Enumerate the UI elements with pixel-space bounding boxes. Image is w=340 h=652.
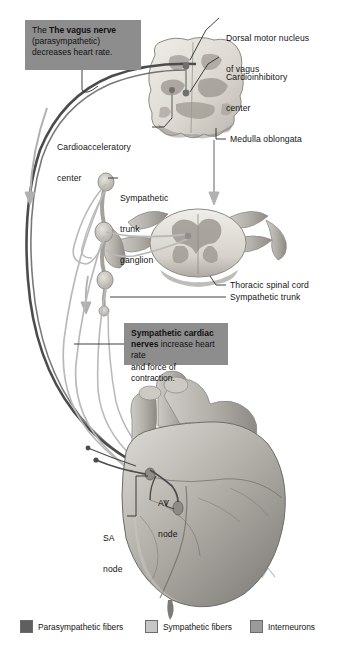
stg-line2: trunk bbox=[120, 224, 168, 234]
medulla-oblongata-label: Medulla oblongata bbox=[230, 134, 302, 144]
sympathetic-trunk-ganglion-label: Sympathetic trunk ganglion bbox=[120, 172, 168, 286]
legend-parasympathetic: Parasympathetic fibers bbox=[20, 620, 123, 633]
sympathetic-trunk-label: Sympathetic trunk bbox=[230, 292, 300, 302]
cardioinhibitory-line1: Cardioinhibitory bbox=[226, 72, 287, 82]
legend-sympathetic: Sympathetic fibers bbox=[145, 620, 232, 633]
cardioinhibitory-center-label: Cardioinhibitory center bbox=[226, 51, 287, 134]
legend-label-interneurons: Interneurons bbox=[268, 622, 315, 632]
dorsal-motor-nucleus-line1: Dorsal motor nucleus bbox=[226, 33, 309, 43]
vagus-callout-line2: (parasympathetic) bbox=[32, 36, 135, 47]
stg-line1: Sympathetic bbox=[120, 193, 168, 203]
cardioacceleratory-line1: Cardioacceleratory bbox=[57, 142, 131, 152]
heart-structure bbox=[122, 371, 285, 620]
vagus-direction-arrow bbox=[25, 108, 47, 205]
av-node-line2: node bbox=[158, 529, 178, 539]
av-node-label: AV node bbox=[158, 477, 178, 560]
figure-canvas: Dorsal motor nucleus of vagus Cardioinhi… bbox=[0, 0, 340, 652]
vagus-callout-line1: The The vagus nerve bbox=[32, 25, 135, 36]
av-node-line1: AV bbox=[158, 498, 178, 508]
legend-swatch-interneurons bbox=[250, 620, 263, 633]
cardioinhibitory-line2: center bbox=[226, 103, 287, 113]
vagus-nerve-callout: The The vagus nerve (parasympathetic) de… bbox=[25, 20, 141, 70]
sa-node-marker bbox=[145, 468, 155, 480]
symp-callout-bold: Sympathetic cardiac bbox=[131, 328, 214, 338]
legend-swatch-parasympathetic bbox=[20, 620, 33, 633]
legend-swatch-sympathetic bbox=[145, 620, 158, 633]
legend-label-parasympathetic: Parasympathetic fibers bbox=[38, 622, 123, 632]
vagus-callout-bold: The vagus nerve bbox=[49, 25, 116, 35]
descending-pathway-arrow bbox=[209, 140, 219, 205]
thoracic-spinal-cord-label: Thoracic spinal cord bbox=[230, 280, 309, 290]
sa-node-label: SA node bbox=[103, 512, 123, 595]
legend-interneurons: Interneurons bbox=[250, 620, 315, 633]
vagus-callout-line3: decreases heart rate. bbox=[32, 47, 135, 58]
symp-callout-line2: nerves increase heart rate bbox=[131, 339, 222, 361]
symp-callout-line3: and force of contraction. bbox=[131, 362, 222, 384]
symp-callout-line1: Sympathetic cardiac bbox=[131, 328, 222, 339]
symp-callout-bold2: nerves bbox=[131, 339, 158, 349]
sa-node-line1: SA bbox=[103, 533, 123, 543]
legend-label-sympathetic: Sympathetic fibers bbox=[163, 622, 232, 632]
vagus-callout-prefix: The bbox=[32, 25, 49, 35]
sa-node-line2: node bbox=[103, 564, 123, 574]
sympathetic-cardiac-nerves-callout: Sympathetic cardiac nerves increase hear… bbox=[124, 323, 228, 365]
legend: Parasympathetic fibers Sympathetic fiber… bbox=[0, 618, 340, 642]
stg-line3: ganglion bbox=[120, 255, 168, 265]
